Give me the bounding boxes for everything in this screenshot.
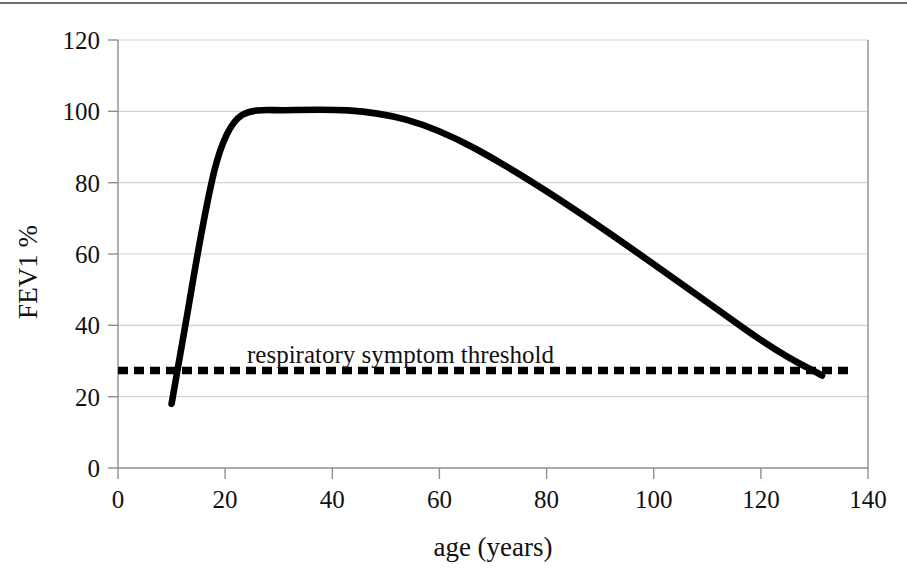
x-tick-marks (118, 468, 868, 479)
y-tick-label-100: 100 (63, 98, 101, 125)
fev1-age-chart: 120 100 80 60 40 20 0 0 20 40 60 80 100 … (0, 0, 907, 586)
figure-container: 120 100 80 60 40 20 0 0 20 40 60 80 100 … (0, 0, 907, 586)
y-tick-label-80: 80 (75, 170, 100, 197)
x-axis-title: age (years) (433, 532, 552, 562)
x-tick-label-60: 60 (427, 486, 452, 513)
x-tick-label-100: 100 (635, 486, 673, 513)
y-tick-label-0: 0 (88, 455, 101, 482)
x-tick-label-140: 140 (849, 486, 887, 513)
x-tick-label-0: 0 (112, 486, 125, 513)
x-tick-labels: 0 20 40 60 80 100 120 140 (112, 486, 887, 513)
y-axis-title: FEV1 % (13, 225, 43, 319)
y-tick-label-20: 20 (75, 384, 100, 411)
x-tick-label-20: 20 (213, 486, 238, 513)
y-tick-labels: 120 100 80 60 40 20 0 (63, 27, 101, 482)
y-tick-marks (108, 40, 118, 468)
x-tick-label-80: 80 (534, 486, 559, 513)
y-tick-label-120: 120 (63, 27, 101, 54)
y-tick-label-40: 40 (75, 312, 100, 339)
x-tick-label-120: 120 (742, 486, 780, 513)
y-tick-label-60: 60 (75, 241, 100, 268)
x-tick-label-40: 40 (320, 486, 345, 513)
respiratory-symptom-threshold-label: respiratory symptom threshold (247, 341, 554, 368)
